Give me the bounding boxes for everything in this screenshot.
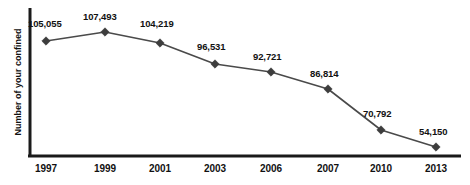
data-point-marker xyxy=(42,37,50,45)
x-axis-tick-label-1999: 1999 xyxy=(94,163,116,174)
x-axis-tick-label-1997: 1997 xyxy=(35,163,57,174)
data-point-marker xyxy=(267,68,275,76)
x-axis-tick-label-2003: 2003 xyxy=(204,163,226,174)
data-point-marker xyxy=(101,28,109,36)
x-axis-tick-label-2010: 2010 xyxy=(370,163,392,174)
data-point-marker xyxy=(156,39,164,47)
data-point-value-label: 105,055 xyxy=(28,18,62,29)
data-point-markers xyxy=(42,28,440,151)
x-axis-tick-label-2001: 2001 xyxy=(149,163,171,174)
data-point-value-label: 104,219 xyxy=(140,18,174,29)
data-point-marker xyxy=(432,143,440,151)
data-point-value-label: 92,721 xyxy=(253,51,281,62)
x-axis-tick-label-2006: 2006 xyxy=(260,163,282,174)
data-point-marker xyxy=(211,60,219,68)
data-point-value-label: 54,150 xyxy=(419,126,447,137)
data-point-value-label: 96,531 xyxy=(197,41,225,52)
data-point-value-label: 107,493 xyxy=(83,11,117,22)
data-point-value-label: 86,814 xyxy=(310,68,338,79)
x-axis-tick-label-2013: 2013 xyxy=(425,163,447,174)
x-axis-tick-label-2007: 2007 xyxy=(317,163,339,174)
data-point-value-label: 70,792 xyxy=(363,108,391,119)
line-chart: Number of your confined 105,055107,49310… xyxy=(0,0,470,185)
plot-area xyxy=(0,0,470,185)
